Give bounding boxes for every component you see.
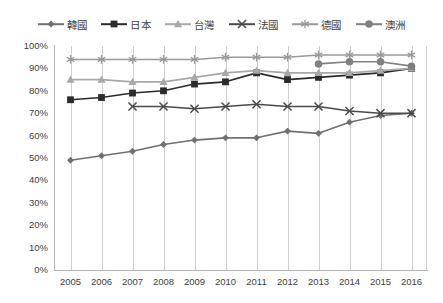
line-chart: 韓國日本台灣法國德國澳洲 100%90%80%70%60%50%40%30%20… bbox=[0, 0, 443, 303]
legend-item-德國[interactable]: 德國 bbox=[292, 17, 342, 32]
data-point-diamond bbox=[129, 148, 136, 155]
series-line bbox=[133, 104, 412, 113]
data-point-circle bbox=[408, 62, 416, 70]
series-line bbox=[71, 113, 412, 160]
data-point-circle bbox=[315, 60, 323, 68]
y-tick-label: 50% bbox=[12, 152, 48, 163]
legend-item-台灣[interactable]: 台灣 bbox=[165, 17, 215, 32]
data-point-square bbox=[98, 94, 105, 101]
legend-label: 台灣 bbox=[194, 17, 215, 32]
x-tick-label: 2011 bbox=[246, 276, 266, 287]
y-axis-labels: 100%90%80%70%60%50%40%30%20%10%0% bbox=[12, 0, 48, 303]
data-point-diamond bbox=[284, 128, 291, 135]
series-line bbox=[319, 62, 412, 66]
legend-label: 德國 bbox=[321, 17, 342, 32]
x-tick-label: 2016 bbox=[401, 276, 422, 287]
x-tick-label: 2009 bbox=[184, 276, 205, 287]
series-3 bbox=[128, 100, 415, 117]
data-point-asterisk bbox=[301, 20, 309, 29]
y-tick-label: 90% bbox=[12, 62, 48, 73]
legend-item-澳洲[interactable]: 澳洲 bbox=[356, 17, 406, 32]
data-point-square bbox=[129, 90, 136, 97]
y-tick-label: 30% bbox=[12, 197, 48, 208]
series-line bbox=[71, 68, 412, 99]
series-1 bbox=[67, 65, 415, 103]
series-0 bbox=[67, 110, 415, 164]
x-tick-label: 2010 bbox=[215, 276, 236, 287]
y-tick-label: 20% bbox=[12, 219, 48, 230]
y-tick-label: 10% bbox=[12, 242, 48, 253]
y-tick-label: 60% bbox=[12, 130, 48, 141]
legend-item-日本[interactable]: 日本 bbox=[101, 17, 151, 32]
x-tick-label: 2014 bbox=[339, 276, 360, 287]
series-5 bbox=[315, 58, 416, 70]
data-point-diamond bbox=[160, 141, 167, 148]
data-point-circle bbox=[377, 58, 385, 66]
data-point-circle bbox=[346, 58, 354, 66]
legend-item-法國[interactable]: 法國 bbox=[229, 17, 279, 32]
legend-triangle-icon bbox=[165, 19, 191, 29]
chart-legend: 韓國日本台灣法國德國澳洲 bbox=[0, 14, 443, 34]
x-tick-label: 2006 bbox=[91, 276, 112, 287]
legend-label: 韓國 bbox=[67, 17, 88, 32]
x-tick-label: 2005 bbox=[60, 276, 81, 287]
data-point-square bbox=[67, 96, 74, 103]
x-axis-line bbox=[54, 270, 428, 271]
x-tick-label: 2007 bbox=[122, 276, 143, 287]
data-point-diamond bbox=[315, 130, 322, 137]
legend-circle-icon bbox=[356, 19, 382, 29]
data-point-circle bbox=[365, 20, 373, 28]
y-tick-label: 80% bbox=[12, 85, 48, 96]
legend-label: 澳洲 bbox=[385, 17, 406, 32]
data-point-diamond bbox=[253, 134, 260, 141]
legend-label: 日本 bbox=[130, 17, 151, 32]
x-tick-label: 2012 bbox=[277, 276, 298, 287]
x-axis-labels: 2005200620072008200920102011201220132014… bbox=[55, 276, 427, 292]
legend-square-icon bbox=[101, 19, 127, 29]
data-point-square bbox=[160, 87, 167, 94]
legend-asterisk-icon bbox=[292, 19, 318, 29]
legend-x-icon bbox=[229, 19, 255, 29]
y-tick-label: 100% bbox=[12, 40, 48, 51]
y-tick-label: 70% bbox=[12, 107, 48, 118]
data-point-diamond bbox=[191, 137, 198, 144]
data-point-triangle bbox=[174, 20, 182, 27]
legend-label: 法國 bbox=[258, 17, 279, 32]
data-point-square bbox=[191, 81, 198, 88]
data-point-square bbox=[284, 76, 291, 83]
data-point-square bbox=[222, 78, 229, 85]
data-point-diamond bbox=[47, 21, 54, 28]
data-point-x bbox=[237, 20, 245, 28]
y-tick-label: 0% bbox=[12, 264, 48, 275]
data-point-diamond bbox=[98, 152, 105, 159]
data-point-diamond bbox=[67, 157, 74, 164]
x-tick-label: 2015 bbox=[370, 276, 391, 287]
data-point-diamond bbox=[346, 119, 353, 126]
series-line bbox=[71, 55, 412, 59]
data-point-square bbox=[111, 21, 118, 28]
x-tick-label: 2013 bbox=[308, 276, 329, 287]
series-layer bbox=[55, 46, 427, 270]
data-point-diamond bbox=[222, 134, 229, 141]
y-tick-label: 40% bbox=[12, 174, 48, 185]
x-tick-label: 2008 bbox=[153, 276, 174, 287]
